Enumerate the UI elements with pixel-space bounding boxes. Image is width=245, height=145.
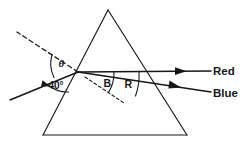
triangular-prism	[43, 10, 187, 135]
red-refracted-ray	[78, 71, 211, 72]
diagram-canvas: θ 40° B R Red Blue	[0, 0, 245, 145]
blue-refracted-ray	[78, 72, 211, 92]
red-angle-label: R	[125, 78, 133, 90]
normal-line-segment	[17, 32, 78, 72]
refracted-rays	[78, 67, 211, 92]
blue-ray-arrowhead	[168, 81, 181, 89]
red-ray-label: Red	[213, 65, 235, 77]
red-angle-arc	[136, 71, 140, 96]
theta-arc	[51, 55, 54, 78]
normal-dashed-line	[17, 32, 78, 72]
theta-label: θ	[59, 57, 65, 69]
incidence-angle-label: 40°	[49, 80, 64, 91]
incident-ray	[10, 72, 78, 100]
blue-ray-label: Blue	[213, 87, 238, 99]
blue-angle-label: B	[104, 77, 112, 89]
prism-dispersion-figure: θ 40° B R Red Blue	[0, 0, 245, 145]
red-ray-arrowhead	[175, 67, 187, 75]
